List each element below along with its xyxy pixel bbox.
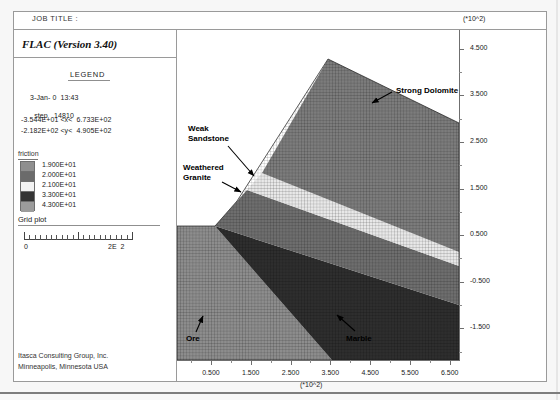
scale-tick-16 <box>110 235 111 240</box>
x-tick-label-1: 1.500 <box>242 369 260 376</box>
scale-tick-17 <box>116 235 117 240</box>
friction-color-swatches <box>20 161 35 211</box>
y-tick-minor-0 <box>459 72 462 73</box>
label-strong-dolomite: Strong Dolomite <box>396 86 458 96</box>
x-tick-minor-6 <box>430 360 431 363</box>
scale-tick-1 <box>29 235 30 240</box>
y-tick-minor-5 <box>459 305 462 306</box>
scale-tick-8 <box>67 235 68 240</box>
x-axis-line <box>177 360 460 361</box>
legend-panel <box>14 30 177 382</box>
friction-value-list: 1.900E+012.000E+012.100E+013.300E+014.30… <box>42 160 76 210</box>
y-tick-major-1 <box>459 95 464 96</box>
friction-value-0: 1.900E+01 <box>42 160 76 170</box>
x-tick-major-2 <box>291 360 292 365</box>
x-tick-label-4: 4.500 <box>361 369 379 376</box>
y-tick-label-5: -0.500 <box>470 277 490 284</box>
scale-tick-3 <box>40 235 41 240</box>
y-tick-label-1: 3.500 <box>470 90 488 97</box>
y-axis-exponent-label: (*10^2) <box>463 15 485 22</box>
y-tick-label-4: 0.500 <box>470 230 488 237</box>
grid-plot-label: Grid plot <box>18 215 46 224</box>
y-tick-major-6 <box>459 328 464 329</box>
x-tick-major-0 <box>211 360 212 365</box>
friction-legend-rule <box>18 159 38 160</box>
scale-tick-12 <box>89 235 90 240</box>
friction-value-2: 2.100E+01 <box>42 180 76 190</box>
job-title-label: JOB TITLE : <box>32 14 78 23</box>
page-right-edge <box>556 0 558 400</box>
y-tick-major-5 <box>459 282 464 283</box>
mesh-overlay <box>177 30 459 360</box>
scale-tick-13 <box>94 235 95 240</box>
friction-swatch-2 <box>21 182 34 192</box>
x-tick-major-3 <box>330 360 331 365</box>
y-tick-label-6: -1.500 <box>470 323 490 330</box>
footer-line-1: Itasca Consulting Group, Inc. <box>18 350 108 361</box>
x-tick-label-5: 5.500 <box>401 369 419 376</box>
label-weathered-granite-line2: Granite <box>183 173 224 183</box>
x-tick-major-5 <box>410 360 411 365</box>
label-marble: Marble <box>346 334 372 344</box>
scale-tick-18 <box>121 235 122 240</box>
scale-ruler <box>24 231 132 240</box>
friction-swatch-0 <box>21 162 34 172</box>
y-tick-minor-6 <box>459 352 462 353</box>
scale-tick-0 <box>24 232 25 240</box>
x-tick-major-6 <box>450 360 451 365</box>
legend-datetime: 3-Jan- 0 13:43 <box>30 94 79 101</box>
scale-tick-7 <box>62 235 63 240</box>
scale-tick-19 <box>127 235 128 240</box>
scale-tick-15 <box>105 235 106 240</box>
app-title: FLAC (Version 3.40) <box>22 38 117 50</box>
y-tick-label-2: 2.500 <box>470 137 488 144</box>
flac-plot-window: JOB TITLE : FLAC (Version 3.40) LEGEND 3… <box>0 0 560 400</box>
scale-tick-5 <box>51 235 52 240</box>
friction-legend-label: friction <box>18 150 39 157</box>
grid-plot-rule <box>18 225 160 226</box>
scale-min-label: 0 <box>24 243 28 250</box>
footer-line-2: Minneapolis, Minnesota USA <box>18 361 108 372</box>
y-tick-minor-2 <box>459 165 462 166</box>
y-axis-line <box>459 30 460 360</box>
x-tick-label-2: 2.500 <box>282 369 300 376</box>
legend-x-range: -3.544E+01 <x< 6.733E+02 <box>21 116 111 123</box>
x-tick-minor-1 <box>231 360 232 363</box>
friction-value-4: 4.300E+01 <box>42 200 76 210</box>
legend-y-range: -2.182E+02 <y< 4.905E+02 <box>21 127 111 134</box>
x-tick-minor-0 <box>191 360 192 363</box>
x-tick-minor-5 <box>390 360 391 363</box>
y-tick-minor-1 <box>459 119 462 120</box>
friction-swatch-3 <box>21 192 34 202</box>
x-tick-major-4 <box>370 360 371 365</box>
y-tick-label-0: 4.500 <box>470 44 488 51</box>
x-axis-exponent-label: (*10^2) <box>300 381 322 388</box>
label-weathered-granite: Weathered Granite <box>183 163 224 183</box>
scale-tick-4 <box>46 235 47 240</box>
x-tick-label-0: 0.500 <box>202 369 220 376</box>
scale-tick-20 <box>132 232 133 240</box>
y-tick-minor-4 <box>459 258 462 259</box>
x-tick-label-6: 6.500 <box>441 369 459 376</box>
y-tick-major-0 <box>459 49 464 50</box>
page-bottom-edge <box>0 392 560 394</box>
y-tick-major-2 <box>459 142 464 143</box>
scale-tick-14 <box>100 235 101 240</box>
label-weak-sandstone: Weak Sandstone <box>188 124 229 144</box>
x-tick-minor-4 <box>350 360 351 363</box>
geology-mesh-svg <box>177 30 459 360</box>
scale-max-label: 2E 2 <box>108 243 124 250</box>
legend-heading-rule <box>68 80 110 81</box>
friction-value-3: 3.300E+01 <box>42 190 76 200</box>
legend-heading: LEGEND <box>70 70 105 79</box>
scale-tick-2 <box>35 235 36 240</box>
grid-plot-canvas <box>177 30 459 360</box>
y-tick-major-3 <box>459 189 464 190</box>
x-tick-minor-2 <box>271 360 272 363</box>
company-footer: Itasca Consulting Group, Inc. Minneapoli… <box>18 350 108 372</box>
y-tick-minor-3 <box>459 212 462 213</box>
y-tick-label-3: 1.500 <box>470 184 488 191</box>
label-weak-sandstone-line2: Sandstone <box>188 134 229 144</box>
label-ore: Ore <box>186 334 200 344</box>
scale-tick-6 <box>56 235 57 240</box>
